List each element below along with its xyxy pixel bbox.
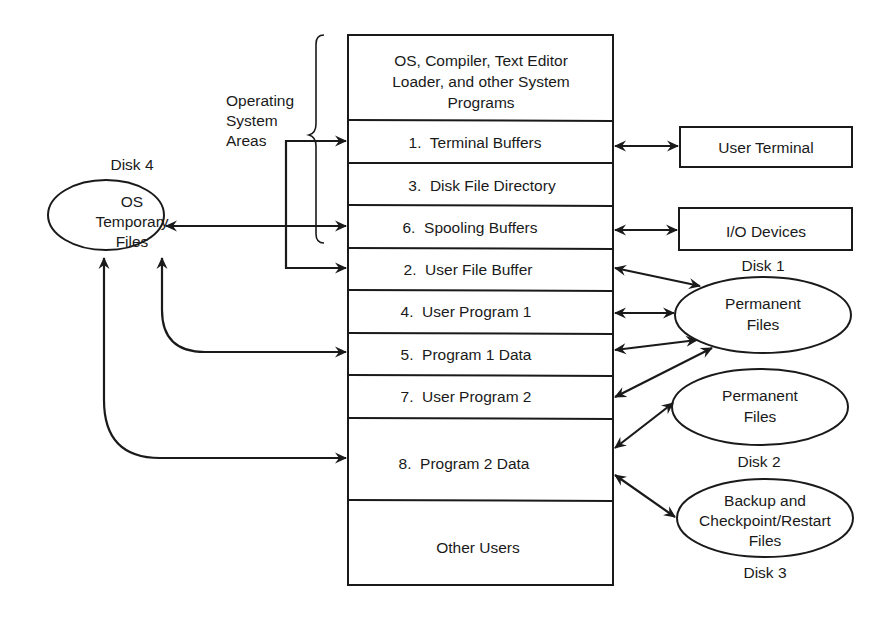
disk-4-line3: Files	[116, 233, 149, 250]
row-divider	[348, 500, 613, 501]
disk-1-permanent-files: Disk 1 Permanent Files	[675, 257, 851, 353]
operating-system-areas-label: Operating System Areas	[226, 92, 294, 149]
disk-3-backup-files: Backup and Checkpoint/Restart Files Disk…	[677, 479, 853, 581]
disk-3-caption: Disk 3	[743, 564, 786, 581]
row-system-programs-line1: OS, Compiler, Text Editor	[394, 52, 568, 69]
row-program-2-data: 8. Program 2 Data	[399, 455, 530, 472]
program2-data-disk3-connector	[615, 475, 675, 517]
row-spooling-buffers: 6. Spooling Buffers	[403, 219, 538, 236]
disk-2-line2: Files	[744, 408, 777, 425]
file-buffer-disk1-connector	[615, 268, 700, 286]
row-program-1-data: 5. Program 1 Data	[401, 346, 532, 363]
io-devices-box: I/O Devices	[679, 208, 852, 250]
disk-3-line3: Files	[749, 532, 782, 549]
disk4-program1-data-connector	[162, 258, 346, 352]
memory-stack-labels: OS, Compiler, Text Editor Loader, and ot…	[392, 52, 570, 556]
user-program2-disk1-connector	[615, 348, 712, 397]
row-divider	[348, 333, 613, 334]
row-divider	[348, 375, 613, 376]
disk-4-line1: OS	[121, 193, 143, 210]
row-divider	[348, 248, 613, 249]
program2-data-disk2-connector	[615, 403, 673, 448]
brace-label-line1: Operating	[226, 92, 294, 109]
disk-2-caption: Disk 2	[737, 453, 780, 470]
row-disk-file-directory: 3. Disk File Directory	[408, 177, 556, 194]
program1-data-disk1-connector	[615, 340, 697, 350]
user-terminal-box: User Terminal	[680, 127, 852, 167]
disk-2-ellipse	[672, 369, 848, 445]
row-divider	[348, 418, 613, 419]
row-terminal-buffers: 1. Terminal Buffers	[409, 134, 542, 151]
row-divider	[348, 205, 613, 206]
memory-map-diagram: OS, Compiler, Text Editor Loader, and ot…	[0, 0, 889, 621]
user-terminal-label: User Terminal	[718, 139, 813, 156]
disk-4-os-temporary-files: Disk 4 OS Temporary Files	[48, 156, 169, 250]
disk-4-caption: Disk 4	[110, 156, 153, 173]
brace-label-line2: System	[226, 112, 278, 129]
right-connectors	[615, 146, 712, 517]
io-devices-label: I/O Devices	[726, 223, 806, 240]
row-divider	[348, 120, 613, 121]
disk-1-caption: Disk 1	[741, 257, 784, 274]
disk-1-line2: Files	[747, 316, 780, 333]
disk4-program2-data-connector	[104, 258, 346, 458]
row-divider	[348, 290, 613, 291]
disk-1-ellipse	[675, 277, 851, 353]
disk-4-line2: Temporary	[95, 213, 168, 230]
row-user-file-buffer: 2. User File Buffer	[404, 261, 533, 278]
operating-system-brace	[309, 35, 324, 243]
row-user-program-2: 7. User Program 2	[401, 388, 532, 405]
brace-label-line3: Areas	[226, 132, 267, 149]
row-user-program-1: 4. User Program 1	[401, 303, 532, 320]
row-system-programs-line3: Programs	[447, 94, 514, 111]
row-system-programs-line2: Loader, and other System	[392, 73, 570, 90]
disk-1-line1: Permanent	[725, 295, 802, 312]
disk-2-permanent-files: Permanent Files Disk 2	[672, 369, 848, 470]
left-connectors	[104, 141, 346, 458]
disk-3-line2: Checkpoint/Restart	[699, 512, 832, 529]
disk-2-line1: Permanent	[722, 387, 799, 404]
row-other-users: Other Users	[436, 539, 520, 556]
disk-3-line1: Backup and	[724, 492, 806, 509]
